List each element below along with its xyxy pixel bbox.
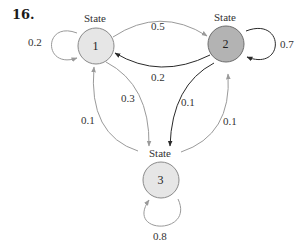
state-node-3: State 3 — [143, 147, 179, 198]
transition-label-2-to-1: 0.2 — [151, 71, 165, 83]
state-title-1: State — [84, 12, 106, 24]
transition-arrow-2-to-2 — [246, 28, 275, 59]
transition-label-1-to-1: 0.2 — [28, 36, 42, 48]
transition-label-1-to-2: 0.5 — [151, 20, 165, 32]
state-label-3: 3 — [158, 173, 164, 187]
transition-label-1-to-3: 0.3 — [121, 92, 135, 104]
transition-label-3-to-1: 0.1 — [81, 114, 95, 126]
transition-label-3-to-2: 0.1 — [223, 115, 237, 127]
transition-label-3-to-3: 0.8 — [153, 230, 167, 242]
state-title-3: State — [149, 147, 171, 159]
transition-arrow-3-to-3 — [144, 199, 181, 226]
state-node-1: State 1 — [78, 12, 114, 64]
transition-label-2-to-2: 0.7 — [280, 38, 294, 50]
transition-label-2-to-3: 0.1 — [181, 96, 195, 108]
transition-arrow-2-to-1 — [115, 53, 210, 67]
state-node-2: State 2 — [208, 11, 244, 62]
transition-arrow-3-to-1 — [93, 67, 138, 151]
problem-number: 16. — [12, 7, 35, 22]
state-label-1: 1 — [93, 39, 99, 53]
transition-arrow-1-to-1 — [52, 31, 78, 60]
transition-arrow-1-to-3 — [106, 62, 149, 146]
state-title-2: State — [214, 11, 236, 23]
state-label-2: 2 — [223, 37, 229, 51]
markov-chain-diagram: 16. 0.2 0.5 0.2 0.7 0.3 0.1 0.1 0.1 0.8 … — [0, 0, 298, 246]
